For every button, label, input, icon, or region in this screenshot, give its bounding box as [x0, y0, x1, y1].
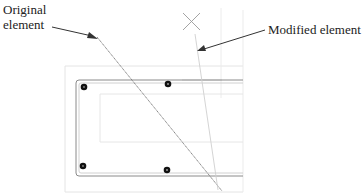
original-element-line	[97, 37, 222, 191]
original-label-line1: Original	[3, 2, 46, 17]
rebar-dots	[80, 81, 172, 174]
original-label-line2: element	[3, 17, 46, 32]
original-arrow	[52, 27, 98, 39]
modified-element-line	[195, 34, 218, 190]
inner-boundary	[100, 94, 243, 142]
diagram-canvas: Original element Modified element	[0, 0, 364, 195]
original-element-label: Original element	[3, 2, 46, 32]
modified-arrow	[197, 30, 265, 51]
x-mark-icon	[183, 13, 200, 30]
modified-element-label: Modified element	[268, 22, 361, 37]
